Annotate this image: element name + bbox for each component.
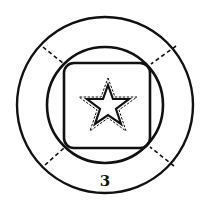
diagram-canvas: 3 (0, 0, 210, 210)
diagram-label: 3 (100, 172, 110, 190)
outer-circle (17, 17, 193, 193)
dashed-connector-bottom-left (45, 148, 64, 165)
dashed-connector-top-left (43, 47, 64, 64)
rounded-square (64, 63, 150, 148)
star-icon (79, 78, 137, 131)
